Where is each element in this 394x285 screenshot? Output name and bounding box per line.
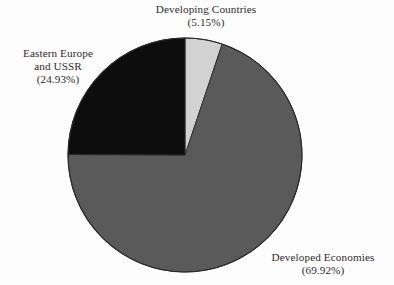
pie-chart-svg [0,0,394,285]
pie-label-developed-economies-percent: (69.92%) [252,264,394,277]
pie-label-developed-economies-name: Developed Economies [252,251,394,264]
pie-label-developing-countries: Developing Countries (5.15%) [137,3,275,29]
pie-label-eastern-europe-ussr-line2: and USSR [6,60,110,73]
pie-chart-figure: Developing Countries (5.15%) Eastern Eur… [0,0,394,285]
pie-label-eastern-europe-ussr: Eastern Europe and USSR (24.93%) [6,47,110,87]
pie-label-developed-economies: Developed Economies (69.92%) [252,251,394,277]
pie-label-developing-countries-percent: (5.15%) [137,16,275,29]
pie-label-developing-countries-name: Developing Countries [137,3,275,16]
pie-label-eastern-europe-ussr-percent: (24.93%) [6,73,110,86]
pie-label-eastern-europe-ussr-line1: Eastern Europe [6,47,110,60]
